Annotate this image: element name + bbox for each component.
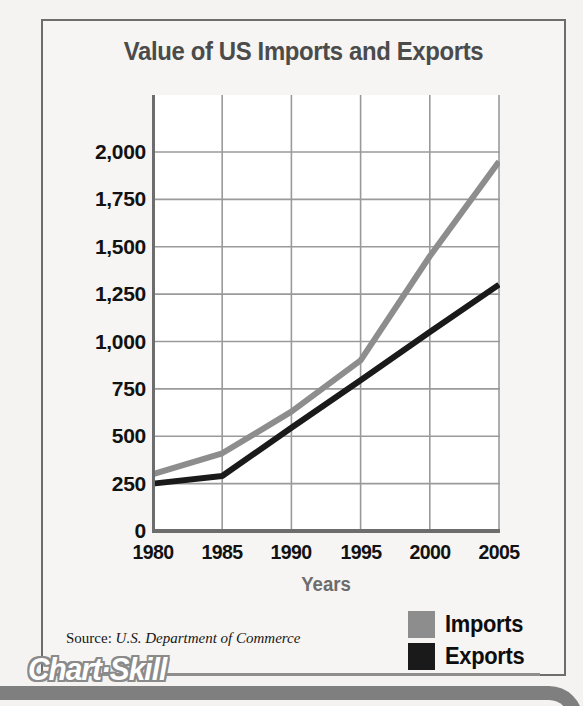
y-tick-label-1500: 1,500 — [46, 236, 146, 257]
x-tick-label-2000: 2000 — [395, 540, 464, 564]
y-tick-label-1000: 1,000 — [46, 331, 146, 352]
plot-area — [152, 95, 500, 533]
x-tick-label-1990: 1990 — [257, 540, 326, 564]
banner-bar — [0, 686, 530, 700]
x-tick-label-1980: 1980 — [119, 540, 188, 564]
source-label: Source: — [66, 630, 112, 646]
y-tick-label-2000: 2,000 — [46, 141, 146, 162]
banner-bar-curve — [500, 686, 583, 706]
x-tick-label-1995: 1995 — [326, 540, 395, 564]
legend-swatch-imports — [408, 611, 435, 638]
y-tick-label-250: 250 — [46, 473, 146, 494]
chart-title: Value of US Imports and Exports — [62, 36, 545, 67]
source-note: Source: U.S. Department of Commerce — [66, 630, 300, 647]
x-tick-label-1985: 1985 — [188, 540, 257, 564]
legend-item-imports: Imports — [408, 608, 558, 640]
legend-label-imports: Imports — [445, 611, 523, 638]
y-tick-label-1250: 1,250 — [46, 283, 146, 304]
x-tick-label-2005: 2005 — [465, 540, 534, 564]
x-axis-title: Years — [164, 573, 488, 596]
y-axis-tick-labels: 02505007501,0001,2501,5001,7502,000 — [42, 95, 146, 533]
y-tick-label-750: 750 — [46, 378, 146, 399]
plot-svg — [152, 95, 500, 533]
chart-skill-banner: Chart·Skill — [0, 652, 583, 706]
y-tick-label-1750: 1,750 — [46, 188, 146, 209]
y-tick-label-500: 500 — [46, 425, 146, 446]
y-tick-label-0: 0 — [46, 520, 146, 541]
chart-skill-label: Chart·Skill — [28, 652, 166, 688]
plot-background — [152, 95, 500, 533]
source-organization: U.S. Department of Commerce — [116, 630, 301, 646]
x-axis-tick-labels: 198019851990199520002005 — [152, 540, 500, 570]
